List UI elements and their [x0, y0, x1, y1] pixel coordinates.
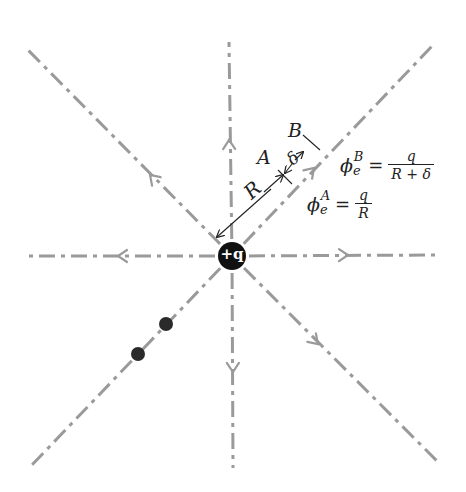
- arrow-icon-up: [223, 140, 235, 149]
- equation-phi-a: ϕ e A = q R: [307, 187, 372, 221]
- point-b-tick: [303, 135, 320, 150]
- fraction-phi-b: q R + δ: [388, 148, 434, 182]
- equation-phi-b: ϕ e B = q R + δ: [340, 148, 434, 182]
- field-line-lower-left: [30, 268, 220, 467]
- label-a: A: [257, 148, 271, 167]
- test-charge-1: [159, 317, 173, 331]
- delta-arrow-lower: [285, 164, 292, 173]
- field-line-right: [249, 255, 438, 256]
- field-line-lower-right: [244, 268, 438, 462]
- field-diagram: R δ A B ϕ e B = q R + δ ϕ e A = q R +q: [0, 0, 466, 492]
- label-b: B: [288, 121, 302, 140]
- r-dimension-arrow-upper: [264, 175, 283, 192]
- fraction-phi-a: q R: [355, 187, 372, 221]
- field-line-upper-left: [26, 48, 220, 244]
- arrow-icon-down: [227, 363, 239, 372]
- test-charge-2: [131, 347, 145, 361]
- arrow-icon-right: [339, 249, 348, 261]
- charge-label: +q: [218, 245, 246, 263]
